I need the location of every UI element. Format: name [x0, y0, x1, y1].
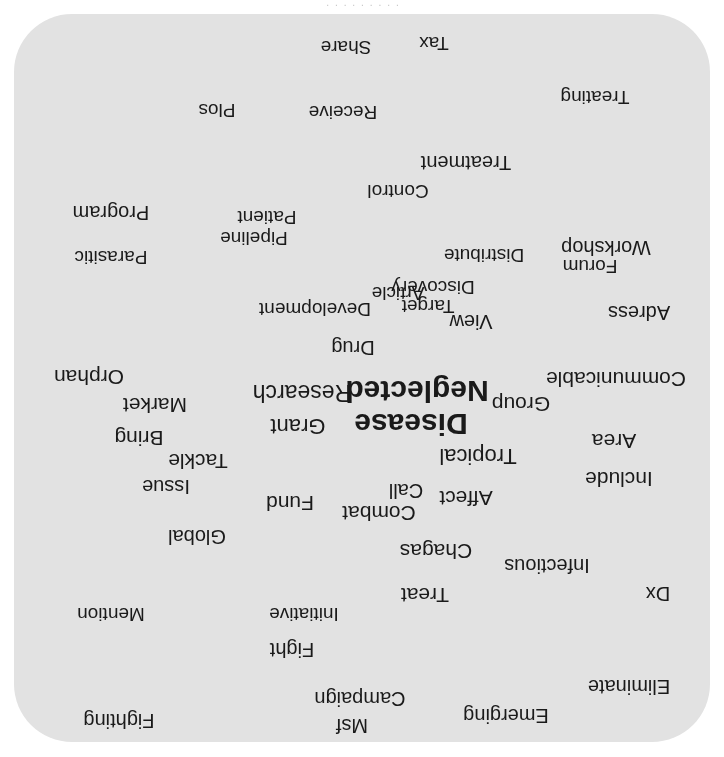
cloud-word: Chagas — [400, 541, 472, 562]
cloud-word: Neglected — [345, 376, 488, 406]
cloud-word: Issue — [142, 477, 190, 497]
cloud-word: Infectious — [504, 556, 590, 576]
cloud-word: Control — [367, 182, 428, 201]
cloud-word: Tax — [419, 34, 449, 53]
cloud-word: Fighting — [83, 711, 154, 731]
cloud-word: Initiative — [269, 605, 339, 624]
cloud-word: Emerging — [463, 706, 549, 726]
cloud-word: Plos — [199, 101, 236, 120]
cloud-word: Program — [73, 203, 150, 223]
cloud-word: Forum — [563, 257, 618, 276]
cloud-word: Patient — [237, 208, 296, 227]
cloud-word: Drug — [331, 338, 374, 358]
cloud-word: Dx — [646, 584, 670, 604]
cloud-word: Research — [253, 381, 351, 404]
cloud-word: Campaign — [314, 689, 405, 709]
cloud-word: Eliminate — [588, 677, 670, 697]
cloud-word: Share — [321, 38, 372, 57]
cloud-word: Workshop — [561, 238, 651, 258]
cloud-word: Treatment — [421, 153, 511, 173]
cloud-word: Fund — [266, 493, 314, 514]
cloud-word: Group — [492, 394, 550, 415]
cloud-word: Receive — [309, 103, 378, 122]
cloud-word: Treating — [561, 88, 630, 107]
cloud-word: Orphan — [54, 367, 124, 388]
cloud-word: Parasitic — [75, 248, 148, 267]
cloud-word: Call — [389, 481, 423, 501]
wordcloud-rotor: FightingMsfEmergingCampaignEliminateFigh… — [14, 14, 710, 742]
wordcloud-panel: FightingMsfEmergingCampaignEliminateFigh… — [14, 14, 710, 742]
cloud-word: Disease — [354, 409, 467, 439]
cloud-word: Pipeline — [220, 229, 288, 248]
cloud-word: Affect — [439, 488, 492, 509]
cloud-word: Msf — [336, 716, 368, 736]
cloud-word: Adress — [608, 303, 670, 323]
cloud-word: Development — [259, 300, 371, 319]
cloud-word: Tackle — [168, 451, 228, 472]
cloud-word: Market — [123, 395, 187, 416]
cloud-word: Bring — [114, 428, 163, 449]
cloud-word: Include — [585, 469, 653, 490]
cloud-word: Treat — [401, 585, 449, 606]
cloud-word: Area — [592, 431, 636, 452]
cloud-word: Global — [168, 527, 226, 547]
cloud-word: Distribute — [444, 246, 524, 265]
cloud-word: Combat — [342, 503, 416, 524]
cloud-word: Tropical — [439, 445, 516, 467]
cloud-word: View — [450, 312, 493, 332]
cloud-word: Communicable — [546, 369, 686, 390]
scan-caption-fragment: · · · · · · · · · — [0, 0, 724, 11]
cloud-word: Discovery — [391, 278, 474, 297]
cloud-word: Grant — [270, 415, 325, 437]
cloud-word: Mention — [77, 605, 145, 624]
cloud-word: Fight — [270, 640, 314, 660]
